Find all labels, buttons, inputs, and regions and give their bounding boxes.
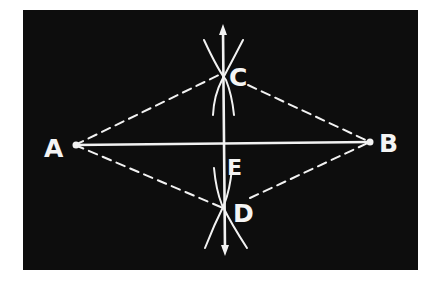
point-b-dot [367, 139, 374, 146]
label-a: A [44, 134, 64, 163]
label-d: D [233, 199, 254, 228]
label-c: C [229, 63, 247, 92]
label-e: E [227, 155, 242, 180]
point-a-dot [73, 142, 80, 149]
diagram-panel [23, 10, 418, 270]
perpendicular-bisector-diagram: A B C D E [0, 0, 436, 283]
label-b: B [379, 129, 398, 158]
